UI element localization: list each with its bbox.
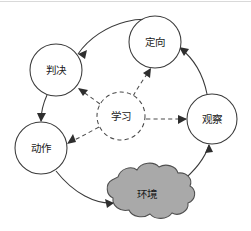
arrowhead-environment-to-observe (205, 144, 213, 153)
node-decide[interactable]: 判决 (30, 44, 82, 96)
edge-act-to-environment (56, 171, 113, 203)
decide-label: 判决 (46, 64, 67, 76)
arrowhead-learn-to-orient (143, 68, 151, 78)
arrowhead-learn-to-observe (178, 115, 187, 124)
arrowhead-learn-to-act (67, 134, 76, 144)
diagram-canvas: 环境 定向 判决 动作 观察 学习 (0, 0, 251, 231)
node-orient[interactable]: 定向 (129, 16, 181, 68)
ooda-loop-diagram: 环境 定向 判决 动作 观察 学习 (0, 0, 251, 231)
observe-label: 观察 (202, 113, 223, 125)
node-learn[interactable]: 学习 (97, 92, 145, 140)
act-label: 动作 (31, 142, 52, 154)
node-act[interactable]: 动作 (15, 122, 67, 174)
orient-label: 定向 (145, 36, 166, 48)
node-environment[interactable]: 环境 (107, 163, 194, 218)
learn-label: 学习 (111, 110, 132, 122)
environment-label: 环境 (137, 188, 158, 200)
node-observe[interactable]: 观察 (187, 94, 237, 144)
arrowhead-decide-to-act (37, 113, 46, 122)
